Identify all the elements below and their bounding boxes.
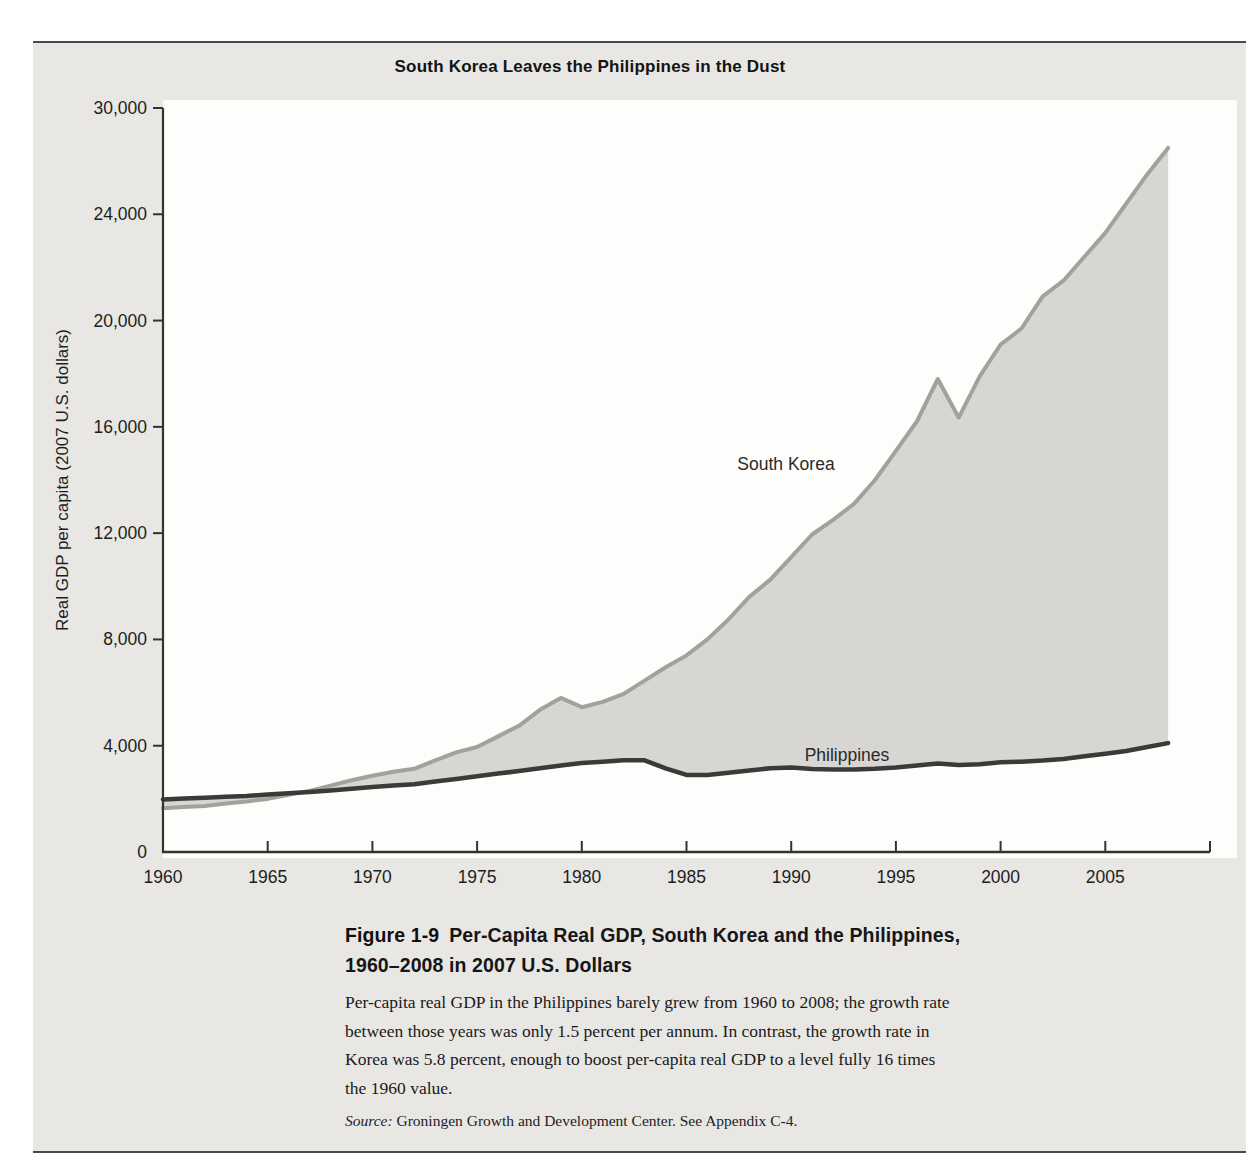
caption-heading-line2: 1960–2008 in 2007 U.S. Dollars [345,950,1045,980]
philippines-label: Philippines [805,745,890,765]
y-tick-label: 16,000 [93,417,147,437]
y-tick-label: 0 [137,842,147,862]
x-tick-label: 1960 [144,867,183,887]
x-tick-label: 1970 [353,867,392,887]
figure-caption: Figure 1-9Per-Capita Real GDP, South Kor… [345,920,1045,1130]
caption-body: Per-capita real GDP in the Philippines b… [345,988,1045,1102]
caption-line: Korea was 5.8 percent, enough to boost p… [345,1045,1045,1074]
y-axis-title: Real GDP per capita (2007 U.S. dollars) [53,329,72,631]
figure-number: Figure 1-9 [345,924,439,946]
x-tick-label: 1985 [667,867,706,887]
textbook-page: South Korea Leaves the Philippines in th… [0,0,1252,1172]
source-label: Source: [345,1112,393,1129]
y-tick-label: 24,000 [93,204,147,224]
caption-heading: Figure 1-9Per-Capita Real GDP, South Kor… [345,920,1045,980]
south-korea-label: South Korea [737,454,835,474]
y-tick-label: 30,000 [93,98,147,118]
source-text: Groningen Growth and Development Center.… [393,1112,798,1129]
x-tick-label: 1990 [772,867,811,887]
caption-source: Source: Groningen Growth and Development… [345,1112,1045,1130]
x-tick-label: 1980 [562,867,601,887]
caption-line: the 1960 value. [345,1074,1045,1103]
x-tick-label: 1975 [458,867,497,887]
x-tick-label: 1995 [876,867,915,887]
caption-heading-line1: Per-Capita Real GDP, South Korea and the… [449,924,960,946]
caption-line: Per-capita real GDP in the Philippines b… [345,988,1045,1017]
caption-line: between those years was only 1.5 percent… [345,1017,1045,1046]
y-tick-label: 12,000 [93,523,147,543]
x-tick-label: 2000 [981,867,1020,887]
y-tick-label: 8,000 [103,629,147,649]
y-tick-label: 20,000 [93,311,147,331]
y-tick-label: 4,000 [103,736,147,756]
x-tick-label: 2005 [1086,867,1125,887]
x-tick-label: 1965 [248,867,287,887]
